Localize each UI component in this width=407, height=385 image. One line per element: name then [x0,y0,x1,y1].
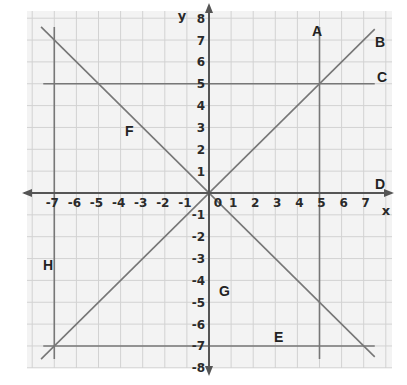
y-tick-label: 3 [197,121,205,135]
y-tick-label: 4 [197,99,205,113]
line-label-g: G [219,283,230,299]
y-tick-label: 6 [197,55,205,69]
line-label-b: B [375,34,385,50]
x-tick-label: 7 [362,196,370,210]
y-tick-label: -5 [192,296,205,310]
line-label-f: F [125,123,134,139]
y-tick-label: 5 [197,77,205,91]
x-tick-label: -7 [46,196,59,210]
arrow-up-icon [205,3,213,13]
x-tick-label: 6 [339,196,347,210]
x-tick-label: 4 [295,196,303,210]
x-tick-label: 2 [251,196,259,210]
x-tick-label: 1 [229,196,237,210]
arrow-down-icon [205,366,213,376]
y-tick-label: -8 [192,361,205,375]
x-tick-label: -1 [178,196,191,210]
y-tick-label: -7 [192,339,205,353]
y-tick-label: -1 [192,208,205,222]
line-label-e: E [274,329,283,345]
x-tick-label: -5 [90,196,103,210]
x-tick-label: -6 [68,196,81,210]
y-tick-label: 1 [197,165,205,179]
y-tick-label: 8 [197,12,205,26]
y-tick-label: 2 [197,143,205,157]
x-tick-label: 5 [317,196,325,210]
y-tick-label: -3 [192,252,205,266]
line-label-h: H [43,257,53,273]
x-axis-label: x [382,203,391,218]
y-tick-label: 7 [197,34,205,48]
x-tick-label: -4 [112,196,125,210]
x-tick-label: -2 [156,196,169,210]
x-tick-label: -3 [134,196,147,210]
y-tick-label: -6 [192,318,205,332]
x-tick-label: 3 [273,196,281,210]
coordinate-plane: -7-6-5-4-3-2-10123456787654321-1-2-3-4-5… [0,0,407,385]
line-label-c: C [377,69,387,85]
y-tick-label: -2 [192,230,205,244]
line-label-d: D [375,176,385,192]
x-tick-label: 0 [214,196,222,210]
y-tick-label: -4 [192,274,205,288]
y-axis-label: y [178,8,187,23]
line-label-a: A [312,23,322,39]
